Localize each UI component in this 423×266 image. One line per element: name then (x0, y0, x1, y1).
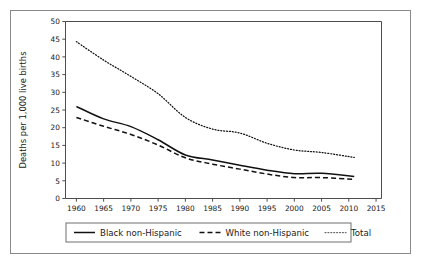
figure-page: Deaths per 1,000 live births 05101520253… (0, 0, 423, 266)
series-line-black-non-hispanic (76, 106, 354, 176)
series-line-white-non-hispanic (76, 117, 354, 179)
x-tick-label: 1990 (230, 204, 249, 213)
x-axis-ticks: 1960196519701975198019851990199520002005… (67, 199, 386, 213)
y-axis-title-text: Deaths per 1,000 live births (18, 51, 28, 168)
plot-spines (66, 22, 382, 199)
chart-legend: Black non-HispanicWhite non-HispanicTota… (66, 223, 371, 242)
x-tick-label: 1980 (176, 204, 195, 213)
x-tick-label: 1965 (94, 204, 113, 213)
y-tick-label: 30 (51, 88, 61, 97)
x-tick-label: 1975 (149, 204, 168, 213)
x-tick-label: 1995 (258, 204, 277, 213)
x-tick-label: 1970 (121, 204, 140, 213)
x-tick-label: 1960 (67, 204, 86, 213)
series-line-total (76, 42, 354, 158)
x-tick-label: 2005 (312, 204, 331, 213)
y-tick-label: 20 (51, 123, 61, 132)
x-tick-label: 2010 (339, 204, 358, 213)
plot-frame (66, 22, 382, 199)
y-tick-label: 45 (51, 35, 61, 44)
line-chart: Deaths per 1,000 live births 05101520253… (0, 0, 423, 266)
y-tick-label: 40 (51, 53, 61, 62)
y-tick-label: 0 (55, 194, 60, 203)
y-axis-title: Deaths per 1,000 live births (18, 51, 28, 168)
x-tick-label: 1985 (203, 204, 222, 213)
y-tick-label: 10 (51, 159, 61, 168)
x-tick-label: 2000 (285, 204, 304, 213)
data-series-group (76, 42, 354, 180)
legend-label: Total (350, 228, 371, 238)
legend-label: Black non-Hispanic (100, 228, 182, 238)
x-tick-label: 2015 (367, 204, 386, 213)
y-axis-ticks: 05101520253035404550 (51, 17, 66, 203)
y-tick-label: 15 (51, 141, 61, 150)
y-tick-label: 50 (51, 17, 61, 26)
y-tick-label: 25 (51, 106, 61, 115)
y-tick-label: 35 (51, 70, 61, 79)
legend-label: White non-Hispanic (226, 228, 310, 238)
y-tick-label: 5 (55, 177, 60, 186)
